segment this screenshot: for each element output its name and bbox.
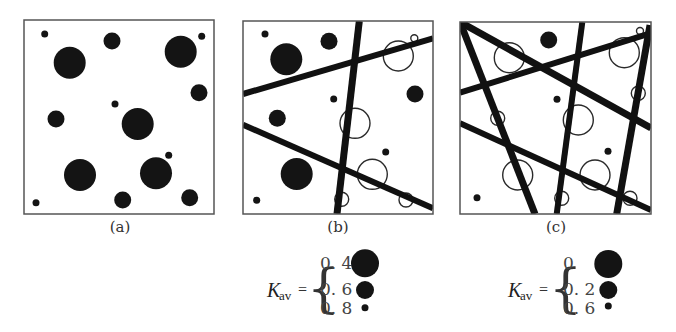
filled-particle <box>104 33 121 50</box>
panel-c-label: (c) <box>546 218 566 236</box>
panel-a: (a) <box>24 20 214 236</box>
filled-particle <box>191 84 208 101</box>
legend-c-circle-large <box>594 250 622 278</box>
legend-b-value-1: 0. 6 <box>320 279 352 299</box>
filled-particle <box>269 110 286 127</box>
crack-line <box>557 22 583 214</box>
filled-particle <box>64 159 96 191</box>
filled-particle <box>554 96 561 103</box>
legend-c-value-0: 0 <box>563 253 574 273</box>
crack-line <box>460 22 535 214</box>
panel-b-label: (b) <box>327 218 348 236</box>
filled-particle <box>198 33 205 40</box>
panel-c: (c) <box>460 22 651 236</box>
filled-particle <box>321 33 338 50</box>
filled-particle <box>474 194 481 201</box>
legend-c-circle-small <box>605 303 612 310</box>
filled-particle <box>165 36 197 68</box>
legend-c-circle-medium <box>599 281 617 299</box>
legend-b-circle-large <box>351 249 379 277</box>
filled-particle <box>112 101 119 108</box>
filled-particle <box>33 199 40 206</box>
crack-line <box>617 25 650 214</box>
filled-particle <box>140 157 172 189</box>
filled-particle <box>54 47 86 79</box>
legend-b-value-0: 0. 4 <box>320 253 352 273</box>
filled-particle <box>407 86 424 103</box>
figure-canvas: (a) (b) (c) K av = { 0. 4 0. 6 0. 8 K av… <box>0 0 676 332</box>
filled-particle <box>540 32 557 49</box>
legend-c-equals: = <box>539 281 548 298</box>
panel-a-label: (a) <box>110 218 131 236</box>
panel-b: (b) <box>243 21 433 236</box>
filled-particle <box>605 148 612 155</box>
filled-particle <box>382 149 389 156</box>
filled-particle <box>41 31 48 38</box>
filled-particle <box>330 96 337 103</box>
filled-particle <box>114 192 131 209</box>
legend-c-value-1: 0. 2 <box>563 279 595 299</box>
legend-c-value-2: 0. 6 <box>563 298 595 318</box>
legend-c-subscript: av <box>520 288 533 303</box>
legend-c: K av = { 0 0. 2 0. 6 <box>507 250 622 318</box>
legend-b-equals: = <box>298 281 307 298</box>
legend-b-subscript: av <box>279 288 292 303</box>
filled-particle <box>122 108 154 140</box>
panel-a-particles <box>33 31 208 209</box>
filled-particle <box>253 197 260 204</box>
filled-particle <box>281 158 313 190</box>
filled-particle <box>262 31 269 38</box>
crack-line <box>243 38 433 94</box>
crack-line <box>337 21 359 214</box>
panel-c-cracks <box>460 22 651 214</box>
filled-particle <box>181 189 198 206</box>
filled-particle <box>270 43 302 75</box>
legend-b-value-2: 0. 8 <box>320 298 352 318</box>
filled-particle <box>165 152 172 159</box>
legend-b-circle-small <box>362 304 369 311</box>
filled-particle <box>48 111 65 128</box>
legend-b-circle-medium <box>356 281 374 299</box>
legend-b: K av = { 0. 4 0. 6 0. 8 <box>266 249 379 318</box>
